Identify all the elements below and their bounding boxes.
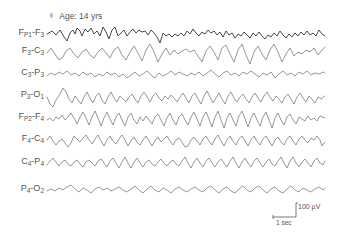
trace-f3-c3 (47, 44, 325, 64)
trace-f4-c4 (47, 135, 325, 147)
amplitude-scale-label: 100 µV (298, 203, 320, 210)
time-scale-label: 1 sec (276, 219, 292, 226)
trace-p3-o1 (47, 88, 325, 107)
scale-bar (273, 203, 298, 219)
trace-fp2-f4 (47, 111, 325, 128)
trace-c3-p3 (47, 70, 325, 78)
trace-c4-p4 (47, 157, 325, 168)
trace-fp1-f3 (47, 27, 325, 43)
eeg-traces (0, 0, 337, 237)
trace-p4-o2 (47, 185, 325, 193)
